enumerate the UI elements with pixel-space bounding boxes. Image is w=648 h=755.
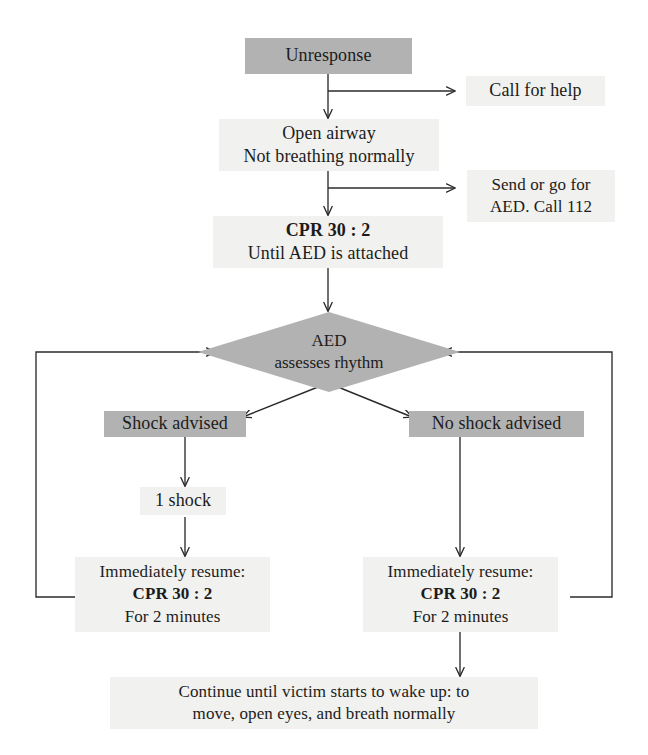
node-shock-advised-line1: Shock advised	[122, 412, 228, 435]
node-shock-advised[interactable]: Shock advised	[104, 411, 246, 437]
node-send-for-aed-line2: AED. Call 112	[490, 196, 592, 218]
node-call-for-help-line1: Call for help	[489, 79, 581, 102]
node-cpr-until-aed-line2: Until AED is attached	[248, 242, 409, 265]
node-resume-left-line2: CPR 30 : 2	[133, 583, 213, 605]
node-aed-assesses-rhythm-line1: AED	[312, 330, 347, 352]
node-resume-right-line2: CPR 30 : 2	[421, 583, 501, 605]
node-resume-right-line1: Immediately resume:	[388, 561, 534, 583]
node-no-shock-advised[interactable]: No shock advised	[409, 411, 584, 437]
node-continue-note-line1: Continue until victim starts to wake up:…	[179, 681, 470, 703]
node-aed-assesses-rhythm[interactable]: AED assesses rhythm	[198, 312, 460, 392]
node-resume-right-line3: For 2 minutes	[413, 606, 509, 628]
node-open-airway-line2: Not breathing normally	[243, 145, 414, 168]
node-resume-left-line3: For 2 minutes	[125, 606, 221, 628]
node-unresponse-line1: Unresponse	[286, 44, 372, 67]
node-one-shock-line1: 1 shock	[155, 489, 211, 512]
diamond-label: AED assesses rhythm	[198, 312, 460, 392]
node-one-shock[interactable]: 1 shock	[140, 487, 226, 515]
node-unresponse[interactable]: Unresponse	[245, 38, 412, 74]
node-cpr-until-aed[interactable]: CPR 30 : 2 Until AED is attached	[213, 216, 443, 268]
node-resume-left-line1: Immediately resume:	[100, 561, 246, 583]
node-call-for-help[interactable]: Call for help	[466, 76, 605, 106]
node-resume-left[interactable]: Immediately resume: CPR 30 : 2 For 2 min…	[75, 557, 270, 632]
node-continue-note-line2: move, open eyes, and breath normally	[193, 703, 456, 725]
node-resume-right[interactable]: Immediately resume: CPR 30 : 2 For 2 min…	[363, 557, 558, 632]
node-open-airway-line1: Open airway	[282, 122, 376, 145]
flowchart-canvas: Unresponse Call for help Open airway Not…	[0, 0, 648, 755]
node-cpr-until-aed-line1: CPR 30 : 2	[286, 219, 371, 242]
node-aed-assesses-rhythm-line2: assesses rhythm	[274, 352, 383, 374]
node-continue-note[interactable]: Continue until victim starts to wake up:…	[110, 677, 538, 729]
node-open-airway[interactable]: Open airway Not breathing normally	[219, 119, 439, 171]
node-send-for-aed-line1: Send or go for	[491, 174, 590, 196]
node-send-for-aed[interactable]: Send or go for AED. Call 112	[467, 170, 615, 222]
node-no-shock-advised-line1: No shock advised	[432, 412, 562, 435]
